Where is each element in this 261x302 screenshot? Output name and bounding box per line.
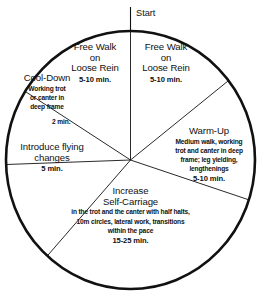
warm-up-heading: Warm-Up [162,126,256,137]
cool-down-time: 2 min. [52,118,70,125]
segment-label-free-walk-right: Free Walk on Loose Rein 5-10 min. [133,42,199,85]
cool-down-heading: Cool-Down [10,73,84,84]
free-walk-right-line3: Loose Rein [133,63,199,74]
start-label: Start [136,8,155,18]
training-cycle-wheel-diagram: Start Free Walk on Loose Rein 5-10 min. … [0,0,261,302]
segment-label-cool-down: Cool-Down Working trot or canter in deep… [10,73,84,111]
cool-down-detail-line2: or canter in [10,94,84,102]
increase-detail-line3: within the pace [47,227,214,235]
warm-up-detail-line2: trot and canter in deep [162,147,256,155]
segment-label-warm-up: Warm-Up Medium walk, working trot and ca… [162,126,256,183]
segment-label-introduce-flying-changes: Introduce flying changes 5 min. [6,142,98,174]
free-walk-right-time: 5-10 min. [133,76,199,85]
increase-heading-line2: Self-Carriage [47,197,214,208]
warm-up-detail-line1: Medium walk, working [162,138,256,146]
flying-heading-line2: changes [6,153,98,164]
increase-time: 15-25 min. [47,237,214,246]
warm-up-detail-line3: frame; leg yielding, [162,156,256,164]
cool-down-detail-line1: Working trot [10,85,84,93]
increase-detail-line1: in the trot and the canter with half hal… [47,208,214,216]
warm-up-detail-line4: lengthenings [162,165,256,173]
segment-label-increase-self-carriage: Increase Self-Carriage in the trot and t… [47,186,214,245]
flying-time: 5 min. [6,165,98,174]
warm-up-time: 5-10 min. [162,175,256,184]
cool-down-detail-line3: deep frame [10,103,84,111]
increase-detail-line2: 10m circles, lateral work, transitions [47,218,214,226]
